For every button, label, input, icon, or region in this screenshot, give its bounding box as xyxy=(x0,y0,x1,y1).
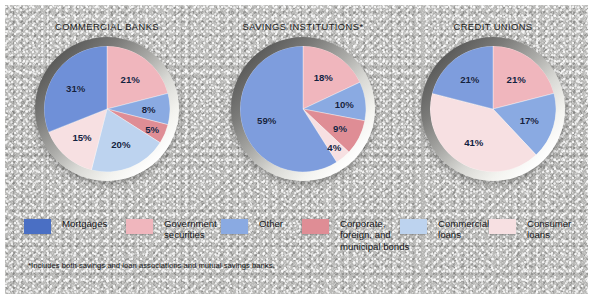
pie-graphic: 21%8%5%20%15%31% xyxy=(35,37,179,181)
slice-value-label: 41% xyxy=(464,136,483,147)
slice-value-label: 5% xyxy=(145,123,159,134)
pie-chart-credit-unions: CREDIT UNIONS 21%17%41%21% xyxy=(403,22,583,207)
slice-value-label: 31% xyxy=(66,82,85,93)
legend-swatch-consumer-loans xyxy=(489,219,516,234)
pie-graphic: 21%17%41%21% xyxy=(421,37,565,181)
slice-value-label: 18% xyxy=(314,72,333,83)
slice-value-label: 20% xyxy=(111,139,130,150)
slice-value-label: 10% xyxy=(335,98,354,109)
slice-value-label: 17% xyxy=(520,114,539,125)
legend-label: Government securities xyxy=(164,218,217,241)
legend-item-corporate-foreign-municipal-bonds[interactable]: Corporate, foreign, and municipal bonds xyxy=(302,218,409,252)
legend-swatch-commercial-loans xyxy=(400,219,427,234)
pie-graphic: 18%10%9%4%59% xyxy=(231,37,375,181)
chart-title: COMMERCIAL BANKS xyxy=(17,22,197,32)
legend-swatch-corporate-foreign-municipal-bonds xyxy=(302,219,329,234)
slice-value-label: 21% xyxy=(507,74,526,85)
footnote: *Includes both savings and loan associat… xyxy=(28,261,275,270)
legend-item-other[interactable]: Other xyxy=(221,218,283,234)
slice-value-label: 59% xyxy=(257,114,276,125)
pie-slices: 21%17%41%21% xyxy=(430,46,556,172)
pie-slices: 18%10%9%4%59% xyxy=(240,46,366,172)
pie-svg xyxy=(430,46,556,172)
slice-value-label: 21% xyxy=(121,74,140,85)
chart-title: CREDIT UNIONS xyxy=(403,22,583,32)
legend-label: Consumer loans xyxy=(527,218,571,241)
slice-value-label: 4% xyxy=(327,141,341,152)
legend-item-mortgages[interactable]: Mortgages xyxy=(24,218,107,234)
legend-swatch-mortgages xyxy=(24,219,51,234)
slice-value-label: 21% xyxy=(460,74,479,85)
legend: MortgagesGovernment securitiesOtherCorpo… xyxy=(12,218,572,264)
pie-chart-commercial-banks: COMMERCIAL BANKS 21%8%5%20%15%31% xyxy=(17,22,197,207)
legend-swatch-government-securities xyxy=(126,219,153,234)
legend-item-consumer-loans[interactable]: Consumer loans xyxy=(489,218,571,241)
figure-canvas: COMMERCIAL BANKS 21%8%5%20%15%31% SAVING… xyxy=(0,0,593,299)
legend-label: Mortgages xyxy=(62,218,107,229)
pie-chart-savings-institutions: SAVINGS INSTITUTIONS* 18%10%9%4%59% xyxy=(213,22,393,207)
slice-value-label: 8% xyxy=(142,104,156,115)
pie-slices: 21%8%5%20%15%31% xyxy=(44,46,170,172)
legend-label: Other xyxy=(259,218,283,229)
slice-value-label: 15% xyxy=(72,132,91,143)
chart-title: SAVINGS INSTITUTIONS* xyxy=(213,22,393,32)
legend-swatch-other xyxy=(221,219,248,234)
legend-item-government-securities[interactable]: Government securities xyxy=(126,218,217,241)
legend-item-commercial-loans[interactable]: Commercial loans xyxy=(400,218,489,241)
legend-label: Corporate, foreign, and municipal bonds xyxy=(340,218,409,252)
legend-label: Commercial loans xyxy=(438,218,489,241)
slice-value-label: 9% xyxy=(333,122,347,133)
